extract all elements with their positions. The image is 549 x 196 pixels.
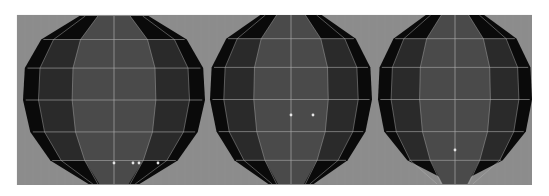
vertex-point[interactable]: [113, 162, 116, 165]
sphere-1[interactable]: [23, 16, 205, 184]
viewport-canvas[interactable]: [0, 0, 549, 196]
vertex-point[interactable]: [290, 114, 293, 117]
vertex-point[interactable]: [157, 162, 160, 165]
vertex-point[interactable]: [312, 114, 315, 117]
vertex-point[interactable]: [454, 149, 457, 152]
vertex-point[interactable]: [132, 162, 135, 165]
vertex-point[interactable]: [138, 162, 141, 165]
3d-viewport[interactable]: [0, 0, 549, 196]
sphere-2[interactable]: [210, 15, 372, 184]
